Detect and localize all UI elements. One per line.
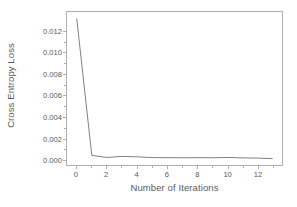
y-tick-mark-minor	[64, 106, 66, 107]
y-tick-mark	[63, 117, 66, 118]
y-axis-title-text: Cross Entropy Loss	[5, 43, 16, 128]
x-tick-mark-minor	[152, 166, 153, 168]
x-tick-label: 12	[254, 170, 262, 179]
x-tick-label: 6	[165, 170, 169, 179]
x-tick-label: 4	[134, 170, 138, 179]
x-tick-mark-minor	[182, 166, 183, 168]
x-axis-title: Number of Iterations	[66, 182, 283, 193]
y-tick-label: 0.012	[24, 26, 62, 35]
y-tick-label: 0.004	[24, 113, 62, 122]
x-tick-mark	[167, 166, 168, 169]
x-tick-mark	[197, 166, 198, 169]
plot-area	[66, 11, 283, 166]
x-tick-label: 0	[74, 170, 78, 179]
y-tick-mark	[63, 95, 66, 96]
y-tick-label: 0.006	[24, 91, 62, 100]
y-tick-mark	[63, 52, 66, 53]
y-tick-mark-minor	[64, 128, 66, 129]
x-tick-mark-minor	[121, 166, 122, 168]
chart-figure: Cross Entropy Loss 0.0000.0020.0040.0060…	[0, 0, 297, 207]
y-tick-mark	[63, 139, 66, 140]
x-tick-mark-minor	[212, 166, 213, 168]
y-tick-label: 0.002	[24, 134, 62, 143]
y-tick-mark-minor	[64, 63, 66, 64]
x-tick-mark-minor	[243, 166, 244, 168]
y-tick-mark-minor	[64, 42, 66, 43]
x-tick-mark	[106, 166, 107, 169]
y-tick-label: 0.010	[24, 48, 62, 57]
y-tick-label: 0.008	[24, 69, 62, 78]
x-tick-mark	[76, 166, 77, 169]
line-series-svg	[67, 12, 282, 165]
x-tick-mark-minor	[273, 166, 274, 168]
x-tick-label: 2	[104, 170, 108, 179]
x-tick-label: 10	[223, 170, 231, 179]
x-tick-mark	[228, 166, 229, 169]
x-tick-mark-minor	[91, 166, 92, 168]
y-tick-mark	[63, 31, 66, 32]
y-tick-mark-minor	[64, 149, 66, 150]
x-tick-label: 8	[195, 170, 199, 179]
y-tick-mark-minor	[64, 85, 66, 86]
y-axis-title: Cross Entropy Loss	[0, 0, 20, 170]
x-tick-mark	[137, 166, 138, 169]
y-tick-mark	[63, 74, 66, 75]
x-tick-mark	[258, 166, 259, 169]
y-tick-label: 0.000	[24, 156, 62, 165]
y-tick-mark	[63, 160, 66, 161]
loss-curve	[77, 19, 272, 159]
